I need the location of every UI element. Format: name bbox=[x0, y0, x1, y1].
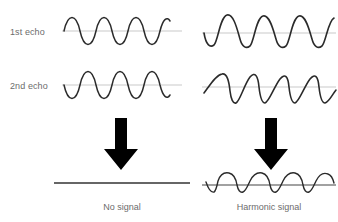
waveform-left-second-echo bbox=[60, 63, 184, 107]
row-label-second-echo: 2nd echo bbox=[10, 82, 48, 91]
result-right-harmonic-signal bbox=[200, 168, 338, 198]
waveform-right-second-echo bbox=[200, 63, 338, 107]
down-arrow-shape bbox=[104, 118, 138, 170]
down-arrow-icon bbox=[250, 116, 292, 172]
row-label-first-echo: 1st echo bbox=[10, 28, 45, 37]
result-left-no-signal bbox=[52, 170, 192, 196]
waveform-left-first-echo-svg bbox=[60, 9, 184, 53]
inverted-distorted-wave-path bbox=[204, 74, 336, 103]
down-arrow-shape bbox=[254, 118, 288, 170]
result-harmonic-svg bbox=[200, 168, 338, 198]
result-flat-line-svg bbox=[52, 170, 192, 196]
waveform-left-first-echo bbox=[60, 9, 184, 53]
waveform-right-first-echo bbox=[200, 9, 338, 53]
waveform-right-first-echo-svg bbox=[200, 9, 338, 53]
waveform-left-second-echo-svg bbox=[60, 63, 184, 107]
harmonic-residual-path bbox=[206, 173, 334, 192]
down-arrow-icon-left bbox=[100, 116, 142, 172]
down-arrow-icon bbox=[100, 116, 142, 172]
waveform-right-second-echo-svg bbox=[200, 63, 338, 107]
down-arrow-icon-right bbox=[250, 116, 292, 172]
diagram-canvas: 1st echo 2nd echo bbox=[0, 0, 338, 222]
distorted-wave-path bbox=[204, 15, 334, 47]
caption-no-signal: No signal bbox=[56, 203, 188, 212]
caption-harmonic-signal: Harmonic signal bbox=[200, 203, 338, 212]
